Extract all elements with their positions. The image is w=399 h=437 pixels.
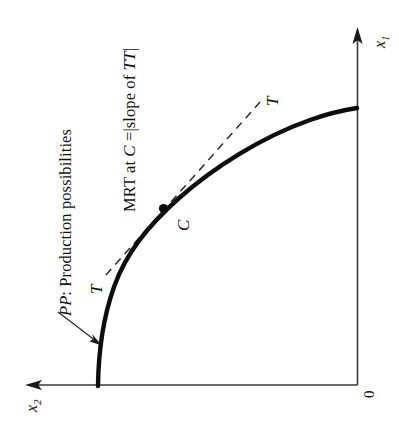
pp-annotation-italic: PP (56, 296, 75, 316)
pp-annotation: PP: Production possibilities (58, 129, 75, 316)
mrt-annotation-tt: TT (120, 51, 139, 70)
axis-label-x1: x1 (372, 35, 391, 48)
axis-label-x2-subscript: 2 (31, 399, 43, 405)
pp-annotation-rest: : Production possibilities (56, 129, 75, 296)
point-c-marker (159, 204, 168, 213)
point-c-label: C (175, 220, 192, 231)
tangent-label-right: T (264, 97, 281, 106)
mrt-annotation-prefix: MRT at (120, 157, 139, 212)
axis-label-x2-base: x (23, 405, 40, 412)
mrt-annotation-equals: =|slope of (120, 70, 139, 145)
axis-label-x2: x2 (24, 399, 43, 412)
mrt-annotation: MRT at C =|slope of TT| (121, 48, 139, 212)
ppf-figure: x1 x2 0 PP: Production possibilities MRT… (0, 0, 399, 437)
mrt-annotation-point: C (120, 145, 139, 156)
axis-horizontal (25, 380, 358, 390)
axis-vertical (352, 27, 362, 385)
axis-label-x1-subscript: 1 (379, 35, 391, 41)
pp-leader-arrow (58, 312, 102, 345)
tangent-label-left: T (88, 285, 105, 294)
axis-label-x1-base: x (371, 41, 388, 48)
origin-label: 0 (362, 391, 377, 399)
mrt-annotation-closebar: | (120, 48, 139, 51)
